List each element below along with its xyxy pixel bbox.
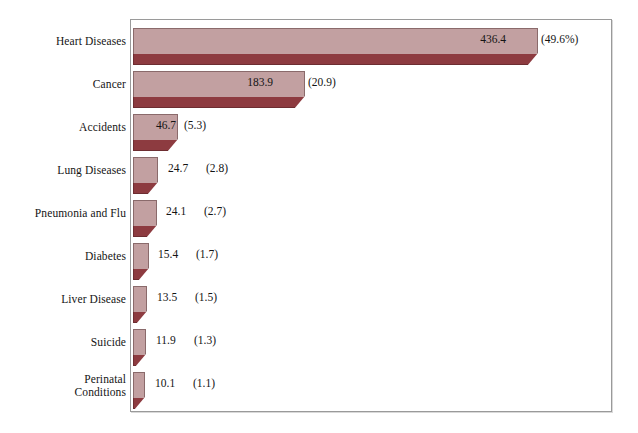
category-label: Perinatal Conditions bbox=[0, 373, 126, 398]
bar-3d[interactable] bbox=[133, 157, 158, 194]
bar-3d[interactable] bbox=[133, 71, 305, 108]
bar-value-label: 24.1 bbox=[166, 205, 186, 217]
bar-percent-label: (20.9) bbox=[308, 76, 336, 88]
bar-value-label: 11.9 bbox=[156, 334, 176, 346]
bar-3d[interactable] bbox=[133, 286, 147, 323]
bar-row[interactable]: Liver Disease 13.5 (1.5) bbox=[0, 286, 638, 326]
bar-value-label: 183.9 bbox=[225, 76, 273, 88]
bar-bevel bbox=[147, 182, 158, 195]
bar-row[interactable]: Diabetes 15.4 (1.7) bbox=[0, 243, 638, 283]
bar-shadow-face bbox=[133, 140, 178, 151]
bar-bevel bbox=[294, 96, 305, 109]
bar-3d[interactable] bbox=[133, 372, 145, 409]
bar-row[interactable]: Perinatal Conditions 10.1 (1.1) bbox=[0, 372, 638, 412]
bar-front-face bbox=[133, 329, 146, 355]
category-label-line2: Conditions bbox=[0, 386, 126, 399]
bar-row[interactable]: Pneumonia and Flu 24.1 (2.7) bbox=[0, 200, 638, 240]
bar-percent-label: (5.3) bbox=[184, 119, 206, 131]
bar-value-label: 10.1 bbox=[155, 377, 175, 389]
bar-percent-label: (2.7) bbox=[204, 205, 226, 217]
bar-value-label: 24.7 bbox=[168, 162, 188, 174]
bar-bevel bbox=[146, 225, 157, 238]
bar-3d[interactable] bbox=[133, 243, 149, 280]
bar-3d[interactable] bbox=[133, 200, 157, 237]
category-label: Suicide bbox=[0, 336, 126, 349]
bar-shadow-face bbox=[133, 355, 146, 366]
bar-percent-label: (2.8) bbox=[206, 162, 228, 174]
chart-page: Heart Diseases 436.4 (49.6%) Cancer 183.… bbox=[0, 0, 638, 433]
bar-bevel bbox=[134, 397, 145, 410]
bar-shadow-face bbox=[133, 226, 157, 237]
bar-front-face bbox=[133, 200, 157, 226]
category-label: Liver Disease bbox=[0, 293, 126, 306]
bar-percent-label: (1.1) bbox=[193, 377, 215, 389]
bar-front-face bbox=[133, 286, 147, 312]
bar-value-label: 46.7 bbox=[136, 119, 176, 131]
bar-3d[interactable] bbox=[133, 329, 146, 366]
bar-shadow-face bbox=[133, 183, 158, 194]
bar-front-face bbox=[133, 71, 305, 97]
bar-percent-label: (1.3) bbox=[194, 334, 216, 346]
bar-value-label: 13.5 bbox=[157, 291, 177, 303]
category-label: Pneumonia and Flu bbox=[0, 207, 126, 220]
bar-row[interactable]: Suicide 11.9 (1.3) bbox=[0, 329, 638, 369]
bar-row[interactable]: Lung Diseases 24.7 (2.8) bbox=[0, 157, 638, 197]
category-label: Lung Diseases bbox=[0, 164, 126, 177]
category-label: Heart Diseases bbox=[0, 35, 126, 48]
bar-shadow-face bbox=[133, 269, 149, 280]
bar-percent-label: (49.6%) bbox=[541, 33, 578, 45]
bar-front-face bbox=[133, 243, 149, 269]
bar-row[interactable]: Cancer 183.9 (20.9) bbox=[0, 71, 638, 111]
bar-front-face bbox=[133, 157, 158, 183]
bar-bevel bbox=[138, 268, 149, 281]
bar-row[interactable]: Accidents 46.7 (5.3) bbox=[0, 114, 638, 154]
bar-percent-label: (1.7) bbox=[196, 248, 218, 260]
category-label: Cancer bbox=[0, 78, 126, 91]
bar-front-face bbox=[133, 372, 145, 398]
bar-value-label: 436.4 bbox=[458, 33, 506, 45]
bar-bevel bbox=[135, 354, 146, 367]
bar-shadow-face bbox=[133, 312, 147, 323]
bar-percent-label: (1.5) bbox=[195, 291, 217, 303]
bar-shadow-face bbox=[133, 398, 145, 409]
category-label-line1: Perinatal bbox=[0, 373, 126, 386]
bar-row[interactable]: Heart Diseases 436.4 (49.6%) bbox=[0, 28, 638, 68]
bar-shadow-face bbox=[133, 54, 538, 65]
bar-bevel bbox=[167, 139, 178, 152]
bar-shadow-face bbox=[133, 97, 305, 108]
bar-bevel bbox=[527, 53, 538, 66]
category-label: Accidents bbox=[0, 121, 126, 134]
bar-bevel bbox=[136, 311, 147, 324]
bar-value-label: 15.4 bbox=[158, 248, 178, 260]
category-label: Diabetes bbox=[0, 250, 126, 263]
